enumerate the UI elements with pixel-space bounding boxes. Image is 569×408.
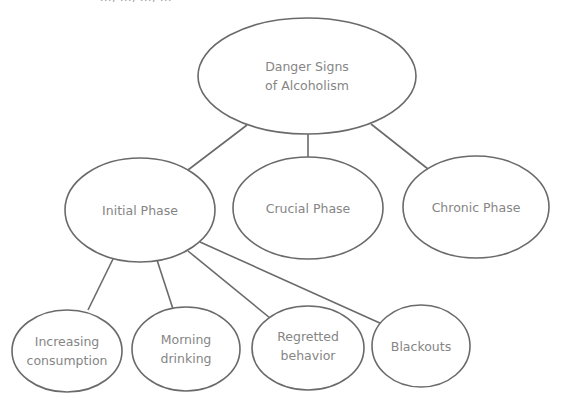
regretted-behavior-label: Regretted behavior bbox=[277, 327, 339, 365]
regretted-line2: behavior bbox=[277, 346, 339, 365]
increasing-consumption-label: Increasing consumption bbox=[27, 332, 108, 370]
crucial-phase-label: Crucial Phase bbox=[266, 199, 351, 218]
edge-root-initial bbox=[188, 125, 247, 170]
initial-phase-label: Initial Phase bbox=[102, 201, 178, 220]
increasing-line2: consumption bbox=[27, 351, 108, 370]
regretted-line1: Regretted bbox=[277, 327, 339, 346]
edge-root-chronic bbox=[371, 124, 428, 169]
increasing-line1: Increasing bbox=[27, 332, 108, 351]
chronic-phase-label: Chronic Phase bbox=[432, 198, 521, 217]
morning-line2: drinking bbox=[160, 349, 211, 368]
root-label: Danger Signs of Alcoholism bbox=[265, 57, 349, 95]
edge-initial-morning bbox=[157, 260, 173, 309]
edge-initial-increasing bbox=[88, 259, 113, 310]
root-label-line1: Danger Signs bbox=[265, 57, 349, 76]
root-label-line2: of Alcoholism bbox=[265, 76, 349, 95]
morning-line1: Morning bbox=[160, 330, 211, 349]
morning-drinking-label: Morning drinking bbox=[160, 330, 211, 368]
blackouts-label: Blackouts bbox=[391, 337, 451, 356]
